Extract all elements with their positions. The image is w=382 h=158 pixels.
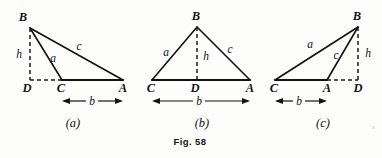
panel-c-vertex-D-label: D (352, 81, 362, 95)
panel-c-arrowhead-left-icon (275, 98, 283, 104)
panel-b-vertex-D-label: D (189, 81, 199, 95)
panel-a-vertex-B-label: B (18, 10, 27, 24)
panel-b-side-h-label: h (203, 50, 209, 62)
panel-a-segment-BC (30, 28, 62, 80)
panel-a-arrowhead-right-icon (115, 98, 123, 104)
panel-b: B C D A a h c b (b) (147, 9, 254, 130)
panel-c-vertex-B-label: B (352, 9, 361, 23)
panel-b-vertex-C-label: C (147, 81, 156, 95)
panel-c-segment-BA (327, 27, 358, 80)
figure-58: B D C A h a c b (a) B (0, 0, 382, 158)
panel-b-arrowhead-right-icon (242, 98, 250, 104)
panel-b-side-a-label: a (163, 46, 169, 58)
panel-a-dimension-b: b (62, 95, 123, 107)
panel-a-segment-BA (30, 28, 123, 80)
panel-c-label: (c) (316, 116, 330, 130)
panel-b-vertex-A-label: A (245, 81, 254, 95)
panel-b-arrowhead-left-icon (152, 98, 160, 104)
panel-b-side-c-label: c (227, 43, 232, 55)
panel-a-vertex-A-label: A (118, 81, 127, 95)
panel-c-side-b-label: b (296, 95, 302, 107)
panel-b-label: (b) (195, 116, 210, 130)
panel-a: B D C A h a c b (a) (16, 10, 127, 130)
panel-c-vertex-C-label: C (270, 81, 279, 95)
panel-a-side-c-label: c (76, 40, 81, 52)
figure-caption: Fig. 58 (174, 136, 207, 147)
panel-b-vertex-B-label: B (191, 9, 200, 23)
panel-b-dimension-b: b (152, 95, 250, 107)
panel-c-segment-CB (275, 27, 358, 80)
panel-c-side-c-label: c (333, 49, 338, 61)
panel-c-side-h-label: h (365, 47, 371, 59)
panel-c-vertex-A-label: A (322, 81, 331, 95)
panel-a-vertex-D-label: D (21, 81, 31, 95)
panel-c: B C A D a c h b (c) (270, 9, 371, 130)
panel-a-label: (a) (66, 116, 81, 130)
panel-b-side-b-label: b (196, 95, 202, 107)
panel-a-side-b-label: b (89, 95, 95, 107)
panel-c-side-a-label: a (307, 38, 313, 50)
figure-canvas: B D C A h a c b (a) B (0, 0, 382, 158)
panel-a-vertex-C-label: C (57, 81, 66, 95)
panel-a-side-a-label: a (50, 52, 56, 64)
panel-c-arrowhead-right-icon (319, 98, 327, 104)
panel-b-segment-CB (152, 27, 197, 80)
panel-a-arrowhead-left-icon (62, 98, 70, 104)
panel-c-dimension-b: b (275, 95, 327, 107)
panel-a-side-h-label: h (16, 48, 22, 60)
paper-speck (372, 126, 375, 129)
